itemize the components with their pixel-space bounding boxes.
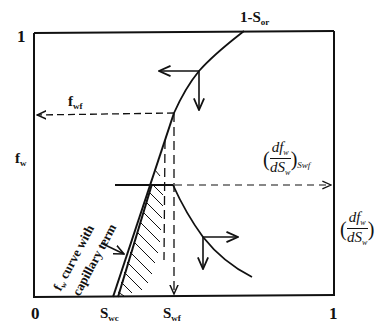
y-axis-label: fw — [15, 151, 27, 168]
fraction-denominator-sub: w — [362, 238, 367, 247]
fraction-numerator-sub: w — [283, 148, 288, 157]
derivative-fraction: dfwdSw — [270, 140, 291, 177]
fwf-label: fwf — [68, 94, 83, 111]
swf-label-sub: wf — [171, 313, 181, 323]
swc-label: Swc — [100, 306, 119, 323]
open-paren: ( — [340, 218, 347, 240]
one-minus-sor-label: 1-Sor — [240, 10, 269, 27]
one-minus-sor-sub: or — [261, 17, 270, 27]
fraction-numerator: df — [272, 139, 284, 155]
swf-label: Swf — [163, 306, 181, 323]
swf-subscript: Swf — [297, 160, 310, 170]
inner-dashed-line — [164, 140, 165, 260]
fwf-label-sub: wf — [73, 101, 83, 111]
open-paren: ( — [263, 148, 270, 170]
fraction-denominator: dS — [270, 159, 285, 175]
fw-upper-curve — [174, 31, 244, 113]
capillary-fw-curve — [118, 184, 152, 297]
fraction-denominator: dS — [347, 229, 362, 245]
x-axis-max-label: 1 — [329, 305, 338, 322]
derivative-curve — [173, 185, 252, 277]
fwf-dashed-line — [37, 113, 174, 115]
right-axis-label: (dfwdSw) — [340, 210, 374, 247]
fraction-numerator-sub: w — [360, 218, 365, 227]
y-axis-max-label: 1 — [17, 28, 26, 45]
derivative-at-swf-label: (dfwdSw)Swf — [263, 140, 310, 177]
fraction-denominator-sub: w — [285, 168, 290, 177]
y-axis-label-sub: w — [20, 158, 27, 168]
swc-label-sub: wc — [108, 313, 119, 323]
right-axis-fraction: dfwdSw — [347, 210, 368, 247]
fraction-numerator: df — [349, 209, 361, 225]
one-minus-sor-main: 1-S — [240, 9, 261, 25]
close-paren: ) — [368, 218, 375, 240]
x-axis-origin-label: 0 — [31, 305, 40, 322]
